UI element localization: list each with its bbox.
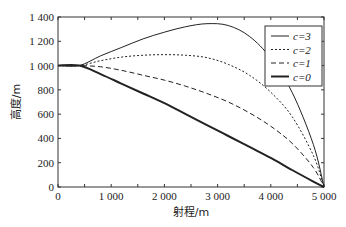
legend-label: c=1	[293, 57, 311, 69]
y-tick-label: 0	[49, 181, 55, 193]
x-tick-label: 3 000	[205, 190, 230, 202]
y-tick-label: 800	[38, 84, 55, 96]
y-tick-label: 1 400	[29, 11, 54, 23]
trajectory-chart: 01 0002 0003 0004 0005 00002004006008001…	[0, 0, 346, 227]
y-tick-label: 200	[38, 157, 55, 169]
legend-label: c=2	[293, 44, 311, 56]
y-tick-label: 1 000	[29, 60, 54, 72]
y-tick-label: 400	[38, 132, 55, 144]
x-tick-label: 2 000	[152, 190, 177, 202]
x-axis-label: 射程/m	[173, 205, 209, 219]
x-tick-label: 0	[55, 190, 61, 202]
x-tick-label: 1 000	[99, 190, 124, 202]
plot-area: 01 0002 0003 0004 0005 00002004006008001…	[29, 11, 337, 202]
y-tick-label: 600	[38, 108, 55, 120]
x-tick-label: 4 000	[258, 190, 283, 202]
legend-label: c=0	[293, 71, 311, 83]
y-axis-label: 高度/m	[9, 84, 23, 120]
legend-label: c=3	[293, 30, 311, 42]
y-tick-label: 1 200	[29, 35, 54, 47]
x-tick-label: 5 000	[312, 190, 337, 202]
